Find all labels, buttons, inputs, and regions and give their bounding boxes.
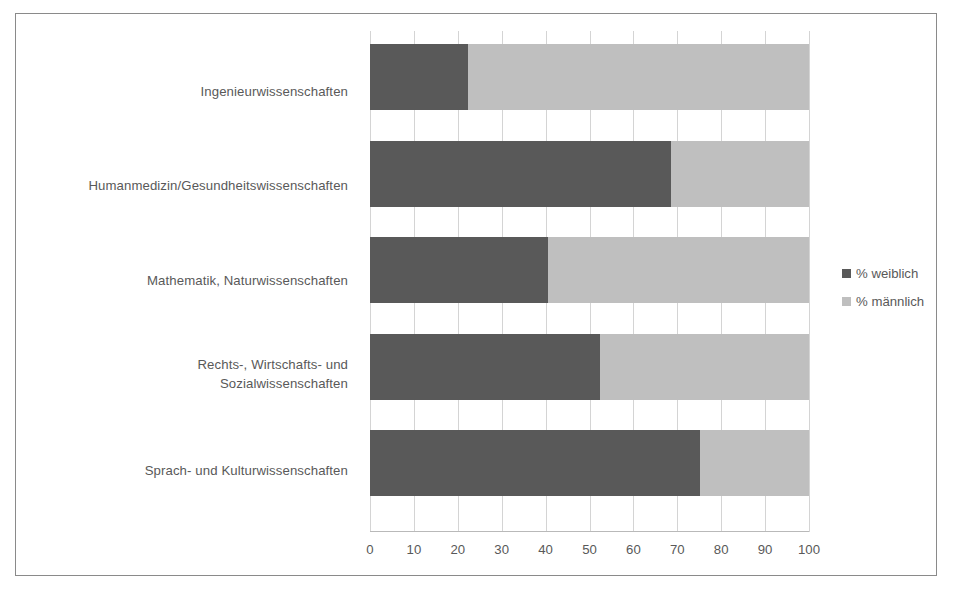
x-tick-label: 50 xyxy=(582,542,597,557)
x-tick-label: 60 xyxy=(626,542,641,557)
x-axis-tick-labels: 0102030405060708090100 xyxy=(370,542,809,566)
category-axis-labels: Ingenieurwissenschaften Humanmedizin/Ges… xyxy=(16,14,356,577)
x-tick-label: 30 xyxy=(494,542,509,557)
legend-label: % männlich xyxy=(856,294,924,309)
legend-swatch-icon xyxy=(842,297,851,306)
chart-figure: Ingenieurwissenschaften Humanmedizin/Ges… xyxy=(15,13,937,576)
bar-row xyxy=(370,334,809,400)
legend: % weiblich% männlich xyxy=(842,259,937,315)
legend-swatch-icon xyxy=(842,269,851,278)
bar-segment-maennlich xyxy=(671,141,809,207)
category-label-mathematik: Mathematik, Naturwissenschaften xyxy=(18,271,348,290)
x-tick-label: 80 xyxy=(714,542,729,557)
x-tick-label: 10 xyxy=(407,542,422,557)
bar-row xyxy=(370,237,809,303)
bar-row xyxy=(370,430,809,496)
bar-row xyxy=(370,44,809,110)
category-label-text: Sprach- und Kulturwissenschaften xyxy=(145,463,348,478)
legend-item: % weiblich xyxy=(842,259,937,287)
category-label-text: Mathematik, Naturwissenschaften xyxy=(147,273,348,288)
gridline xyxy=(809,31,810,532)
plot-area xyxy=(370,31,809,532)
x-tick-label: 100 xyxy=(798,542,820,557)
category-label-humanmedizin: Humanmedizin/Gesundheitswissenschaften xyxy=(18,176,348,195)
bar-row xyxy=(370,141,809,207)
legend-item: % männlich xyxy=(842,287,937,315)
x-tick-label: 70 xyxy=(670,542,685,557)
bar-segment-maennlich xyxy=(600,334,809,400)
bar-segment-maennlich xyxy=(548,237,809,303)
legend-label: % weiblich xyxy=(856,266,918,281)
bar-segment-maennlich xyxy=(700,430,809,496)
x-tick-label: 90 xyxy=(758,542,773,557)
x-tick-label: 40 xyxy=(538,542,553,557)
category-label-text-line1: Rechts-, Wirtschafts- und xyxy=(18,355,348,374)
bar-segment-weiblich xyxy=(370,141,671,207)
bar-segment-weiblich xyxy=(370,237,548,303)
bar-segment-weiblich xyxy=(370,334,600,400)
x-tick-label: 20 xyxy=(450,542,465,557)
category-label-text: Ingenieurwissenschaften xyxy=(201,84,348,99)
category-label-sprach-kultur: Sprach- und Kulturwissenschaften xyxy=(18,461,348,480)
bar-segment-weiblich xyxy=(370,430,700,496)
category-label-text-line2: Sozialwissenschaften xyxy=(18,374,348,393)
category-label-text: Humanmedizin/Gesundheitswissenschaften xyxy=(88,178,348,193)
category-label-rechts-wirtschafts: Rechts-, Wirtschafts- und Sozialwissensc… xyxy=(18,355,348,393)
bar-segment-maennlich xyxy=(468,44,809,110)
x-tick-label: 0 xyxy=(366,542,373,557)
x-axis-line xyxy=(370,531,809,532)
bar-segment-weiblich xyxy=(370,44,468,110)
category-label-ingenieurwissenschaften: Ingenieurwissenschaften xyxy=(18,82,348,101)
